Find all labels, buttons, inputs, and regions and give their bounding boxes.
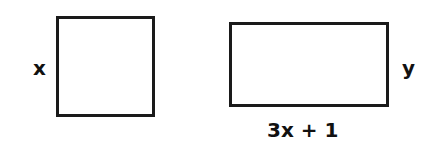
square-side-label: x [33,58,46,78]
rectangle [229,22,389,107]
rectangle-width-label: 3x + 1 [267,120,338,140]
rectangle-height-label: y [402,58,415,78]
square [56,16,155,117]
